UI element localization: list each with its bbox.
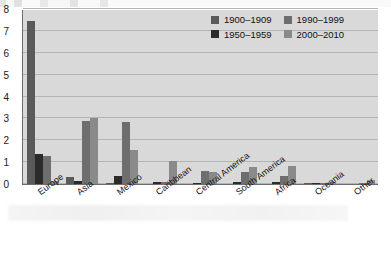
bar-chart: 012345678 EuropeAsiaMexicoCaribbeanCentr… [0, 0, 391, 253]
chart-legend: 1900–19091990–19991950–19592000–2010 [208, 13, 347, 41]
y-axis-tick-label: 7 [0, 27, 9, 37]
legend-label: 1990–1999 [297, 15, 345, 25]
legend-entry: 2000–2010 [284, 30, 345, 40]
legend-swatch-icon [284, 30, 292, 38]
y-axis-tick-label: 8 [0, 5, 9, 15]
legend-entry: 1900–1909 [211, 15, 272, 25]
y-axis-tick-label: 6 [0, 49, 9, 59]
legend-label: 1950–1959 [224, 30, 272, 40]
y-axis-tick-label: 2 [0, 136, 9, 146]
y-axis-tick-label: 1 [0, 158, 9, 168]
legend-entry: 1950–1959 [211, 30, 272, 40]
y-axis-tick-label: 0 [0, 180, 9, 190]
legend-swatch-icon [211, 30, 219, 38]
y-axis-tick-label: 4 [0, 93, 9, 103]
legend-label: 2000–2010 [297, 30, 345, 40]
scan-smudge [8, 205, 348, 221]
legend-label: 1900–1909 [224, 15, 272, 25]
y-axis-tick-label: 5 [0, 71, 9, 81]
legend-entry: 1990–1999 [284, 15, 345, 25]
y-axis-tick-label: 3 [0, 114, 9, 124]
legend-swatch-icon [211, 16, 219, 24]
legend-swatch-icon [284, 16, 292, 24]
